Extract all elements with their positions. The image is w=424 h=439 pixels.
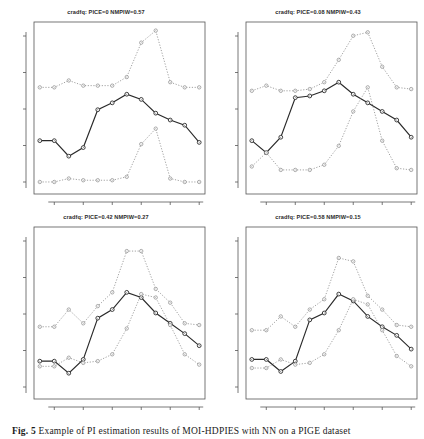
- caption-text: Example of PI estimation results of MOI-…: [38, 426, 350, 436]
- plot-top-left: 24681012: [0, 0, 212, 205]
- plot-bottom-right: 24681012: [212, 205, 424, 410]
- panel-bottom-right: cradfq: PICE=0.58 NMPIW=0.15 24681012: [212, 205, 424, 410]
- panel-top-left: cradfq: PICE=0 NMPIW=0.57 24681012: [0, 0, 212, 205]
- caption-label: Fig. 5: [12, 426, 36, 436]
- plot-top-right: 24681012: [212, 0, 424, 205]
- panel-grid: cradfq: PICE=0 NMPIW=0.57 24681012 cradf…: [0, 0, 424, 410]
- figure-caption: Fig. 5 Example of PI estimation results …: [12, 426, 412, 439]
- plot-bottom-left: 24681012: [0, 205, 212, 410]
- figure-root: cradfq: PICE=0 NMPIW=0.57 24681012 cradf…: [0, 0, 424, 439]
- panel-top-right: cradfq: PICE=0.08 NMPIW=0.43 24681012: [212, 0, 424, 205]
- panel-bottom-left: cradfq: PICE=0.42 NMPIW=0.27 24681012: [0, 205, 212, 410]
